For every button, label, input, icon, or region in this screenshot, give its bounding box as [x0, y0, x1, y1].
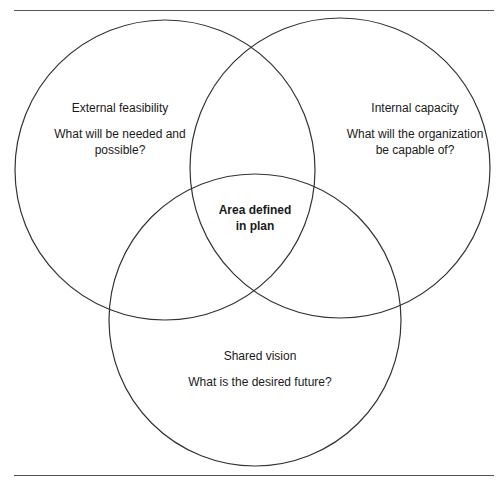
internal-question-line2: be capable of?	[335, 142, 495, 158]
external-title: External feasibility	[35, 100, 205, 116]
external-question-line1: What will be needed and	[35, 126, 205, 142]
shared-question: What is the desired future?	[175, 374, 345, 390]
shared-title: Shared vision	[175, 348, 345, 364]
circle-internal-capacity	[190, 18, 490, 318]
internal-title: Internal capacity	[335, 100, 495, 116]
external-feasibility-label: External feasibility What will be needed…	[35, 100, 205, 158]
external-question-line2: possible?	[35, 142, 205, 158]
venn-diagram	[0, 0, 503, 485]
intersection-line1: Area defined	[195, 202, 315, 218]
circle-external-feasibility	[15, 20, 315, 320]
internal-question-line1: What will the organization	[335, 126, 495, 142]
shared-vision-label: Shared vision What is the desired future…	[175, 348, 345, 390]
internal-question: What will the organization be capable of…	[335, 126, 495, 158]
intersection-line2: in plan	[195, 218, 315, 234]
internal-capacity-label: Internal capacity What will the organiza…	[335, 100, 495, 158]
external-question: What will be needed and possible?	[35, 126, 205, 158]
intersection-label: Area defined in plan	[195, 202, 315, 234]
